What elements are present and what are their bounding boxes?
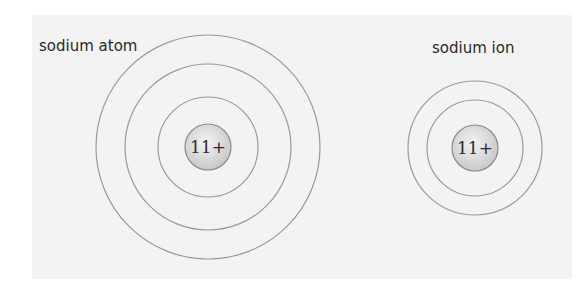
atom-nucleus-label: 11+ [190, 137, 226, 157]
ion-label: sodium ion [432, 39, 514, 57]
sodium-atom-ion-diagram: sodium atom 11+ sodium ion 11+ [0, 0, 584, 286]
sodium-ion: sodium ion 11+ [404, 39, 546, 218]
atom-label: sodium atom [39, 37, 137, 55]
sodium-atom: sodium atom 11+ [39, 31, 320, 259]
ion-nucleus-label: 11+ [457, 138, 493, 158]
